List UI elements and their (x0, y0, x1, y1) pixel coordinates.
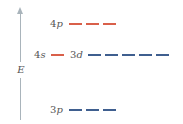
level-3p-orbitals (69, 109, 116, 111)
orbital-line (103, 23, 116, 25)
orbital-line (69, 23, 82, 25)
orbital-line (139, 54, 152, 56)
orbital-line (69, 109, 82, 111)
level-label-4p: 4p (50, 19, 63, 29)
level-label-4s: 4s (34, 50, 46, 60)
orbital-line (86, 109, 99, 111)
energy-axis-line-upper (20, 12, 21, 62)
orbital-line (105, 54, 118, 56)
level-4p-orbitals (69, 23, 116, 25)
level-4s-orbitals (51, 54, 64, 56)
orbital-line (88, 54, 101, 56)
level-label-3p: 3p (50, 105, 63, 115)
level-3d-orbitals (88, 54, 169, 56)
orbital-line (86, 23, 99, 25)
energy-axis-line-lower (20, 78, 21, 120)
orbital-line (51, 54, 64, 56)
energy-level-diagram: E 4p 4s 3d 3p (0, 0, 183, 124)
orbital-line (156, 54, 169, 56)
energy-axis-label: E (16, 64, 26, 75)
orbital-line (122, 54, 135, 56)
level-label-3d: 3d (70, 50, 83, 60)
orbital-line (103, 109, 116, 111)
